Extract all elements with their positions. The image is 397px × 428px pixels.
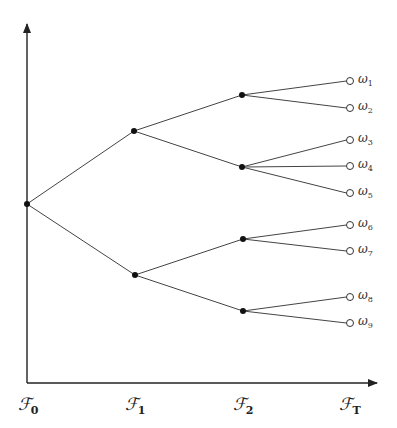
tree-edge (135, 275, 243, 311)
leaf-node-w6 (347, 222, 354, 229)
filtration-tree-diagram: ℱ0ℱ1ℱ2ℱT ω1ω2ω3ω4ω5ω6ω7ω8ω9 (0, 0, 397, 428)
tree-node-n0 (24, 201, 30, 207)
leaf-label-w3: ω3 (358, 131, 373, 147)
filtration-label-0: ℱ0 (18, 394, 39, 417)
leaf-node-w1 (347, 78, 354, 85)
leaf-edge (242, 140, 347, 167)
leaf-edge (242, 166, 347, 167)
leaf-label-w5: ω5 (358, 184, 373, 200)
leaf-edge (243, 239, 347, 251)
tree-canvas (0, 0, 397, 428)
tree-edge (135, 239, 243, 275)
filtration-label-1: ℱ1 (125, 394, 146, 417)
tree-node-n2a (239, 92, 245, 98)
leaf-node-w3 (347, 137, 354, 144)
tree-node-n2d (240, 308, 246, 314)
tree-edge (134, 95, 242, 131)
leaf-label-w9: ω9 (358, 314, 373, 330)
tree-node-n2b (239, 164, 245, 170)
filtration-label-2: ℱ2 (233, 394, 254, 417)
tree-edge (27, 131, 134, 204)
tree-leaves (347, 78, 354, 327)
leaf-edge (243, 225, 347, 239)
leaf-edge (243, 297, 347, 311)
leaf-label-w4: ω4 (358, 157, 373, 173)
leaf-node-w7 (347, 248, 354, 255)
leaf-node-w9 (347, 320, 354, 327)
tree-edge (134, 131, 242, 167)
leaf-node-w4 (347, 163, 354, 170)
leaf-label-w2: ω2 (358, 99, 373, 115)
axes (27, 24, 377, 383)
tree-edges (27, 81, 347, 323)
leaf-node-w8 (347, 294, 354, 301)
leaf-label-w8: ω8 (358, 288, 373, 304)
filtration-label-T: ℱT (339, 394, 360, 417)
leaf-edge (242, 167, 347, 193)
leaf-label-w1: ω1 (358, 72, 373, 88)
leaf-node-w5 (347, 190, 354, 197)
leaf-edge (242, 95, 347, 108)
leaf-node-w2 (347, 105, 354, 112)
tree-edge (27, 204, 135, 275)
tree-node-n2c (240, 236, 246, 242)
leaf-edge (243, 311, 347, 323)
tree-nodes (24, 92, 246, 314)
leaf-label-w6: ω6 (358, 216, 373, 232)
tree-node-n1a (131, 128, 137, 134)
tree-node-n1b (132, 272, 138, 278)
leaf-edge (242, 81, 347, 95)
leaf-label-w7: ω7 (358, 242, 373, 258)
